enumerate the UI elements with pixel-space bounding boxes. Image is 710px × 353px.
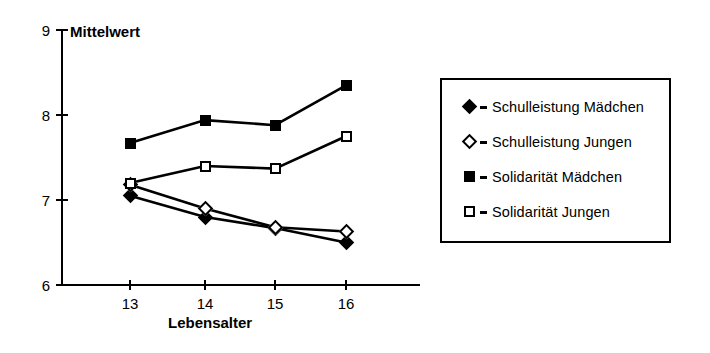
- ytick-label-6: 6: [28, 278, 50, 293]
- xtick-label-15: 15: [258, 296, 292, 311]
- xtick-label-13: 13: [113, 296, 147, 311]
- legend-marker-filled-diamond-icon: [462, 96, 492, 118]
- legend-line-stub-2: [480, 176, 487, 179]
- legend-symbol-1: [462, 134, 478, 150]
- series-line-3: [130, 136, 346, 183]
- legend-label-2: Solidarität Mädchen: [492, 169, 622, 185]
- legend-item-1[interactable]: Schulleistung Jungen: [462, 131, 632, 153]
- series-line-1: [130, 185, 346, 232]
- legend-item-3[interactable]: Solidarität Jungen: [462, 201, 610, 223]
- data-point-2-16: [341, 80, 352, 91]
- legend-line-stub-3: [480, 211, 487, 214]
- data-point-2-15: [270, 120, 281, 131]
- data-point-3-14: [200, 161, 211, 172]
- legend-symbol-2: [464, 171, 475, 182]
- axis-lines: [62, 30, 420, 285]
- series-lines: [130, 85, 346, 242]
- legend-symbol-0: [462, 99, 478, 115]
- data-point-3-16: [341, 131, 352, 142]
- xtick-label-14: 14: [188, 296, 222, 311]
- legend-item-2[interactable]: Solidarität Mädchen: [462, 166, 622, 188]
- legend-label-1: Schulleistung Jungen: [492, 134, 632, 150]
- data-point-3-13: [125, 178, 136, 189]
- x-axis-title: Lebensalter: [168, 315, 252, 330]
- xtick-label-16: 16: [329, 296, 363, 311]
- chart-figure: 9 8 7 6 13 14 15 16 Mittelwert Lebensalt…: [0, 0, 710, 353]
- legend-symbol-3: [464, 206, 475, 217]
- data-point-2-13: [125, 138, 136, 149]
- plot-area: 9 8 7 6 13 14 15 16 Mittelwert Lebensalt…: [0, 0, 420, 353]
- legend-line-stub-1: [480, 141, 487, 144]
- data-point-2-14: [200, 115, 211, 126]
- ytick-label-8: 8: [28, 108, 50, 123]
- legend-line-stub-0: [480, 106, 487, 109]
- series-line-0: [130, 196, 346, 243]
- legend-marker-filled-square-icon: [462, 166, 492, 188]
- series-line-2: [130, 85, 346, 143]
- legend-marker-open-square-icon: [462, 201, 492, 223]
- data-point-3-15: [270, 163, 281, 174]
- y-axis-title: Mittelwert: [70, 24, 140, 39]
- ytick-label-9: 9: [28, 23, 50, 38]
- legend-label-0: Schulleistung Mädchen: [492, 99, 644, 115]
- legend-marker-open-diamond-icon: [462, 131, 492, 153]
- legend-box: Schulleistung MädchenSchulleistung Junge…: [440, 78, 671, 243]
- legend-item-0[interactable]: Schulleistung Mädchen: [462, 96, 644, 118]
- ytick-label-7: 7: [28, 193, 50, 208]
- legend-label-3: Solidarität Jungen: [492, 204, 610, 220]
